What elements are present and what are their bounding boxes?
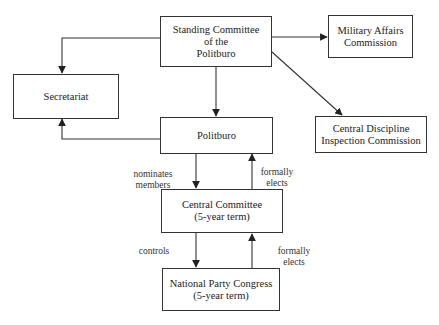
edge-label-elects-politburo: formally elects bbox=[257, 167, 297, 189]
node-label: Secretariat bbox=[44, 91, 89, 103]
edge-label-elects-cc: formally elects bbox=[274, 246, 314, 268]
node-secretariat: Secretariat bbox=[13, 74, 119, 119]
node-label: Commission bbox=[344, 37, 397, 49]
edge-label-controls: controls bbox=[134, 246, 174, 257]
node-label: Politburo bbox=[197, 130, 236, 142]
edge-standing-to-discipline bbox=[272, 52, 342, 115]
edge-label-nominates: nominates members bbox=[128, 169, 178, 191]
node-label: Central Discipline bbox=[333, 123, 410, 135]
node-label: Military Affairs bbox=[337, 25, 403, 37]
node-label: (5-year term) bbox=[193, 290, 249, 302]
node-label: Politburo bbox=[196, 48, 235, 60]
edge-label-line: formally bbox=[257, 167, 297, 178]
edge-label-line: elects bbox=[257, 178, 297, 189]
node-label: Standing Committee bbox=[173, 24, 260, 36]
edge-label-line: nominates bbox=[128, 169, 178, 180]
node-politburo: Politburo bbox=[160, 117, 273, 154]
node-military-affairs: Military Affairs Commission bbox=[328, 15, 413, 58]
edge-politburo-to-secretariat bbox=[62, 119, 160, 139]
edge-label-line: elects bbox=[274, 257, 314, 268]
edge-label-line: members bbox=[128, 180, 178, 191]
node-central-committee: Central Committee (5-year term) bbox=[161, 189, 283, 233]
node-standing-committee: Standing Committee of the Politburo bbox=[160, 16, 272, 67]
node-label: (5-year term) bbox=[194, 211, 250, 223]
edge-label-line: formally bbox=[274, 246, 314, 257]
node-national-party-congress: National Party Congress (5-year term) bbox=[162, 268, 280, 311]
edge-standing-to-secretariat bbox=[62, 38, 160, 73]
node-label: National Party Congress bbox=[170, 278, 273, 290]
node-label: of the bbox=[204, 36, 228, 48]
node-label: Inspection Commission bbox=[321, 135, 420, 147]
node-label: Central Committee bbox=[182, 199, 262, 211]
edge-label-line: controls bbox=[134, 246, 174, 257]
node-central-discipline: Central Discipline Inspection Commission bbox=[315, 116, 427, 153]
